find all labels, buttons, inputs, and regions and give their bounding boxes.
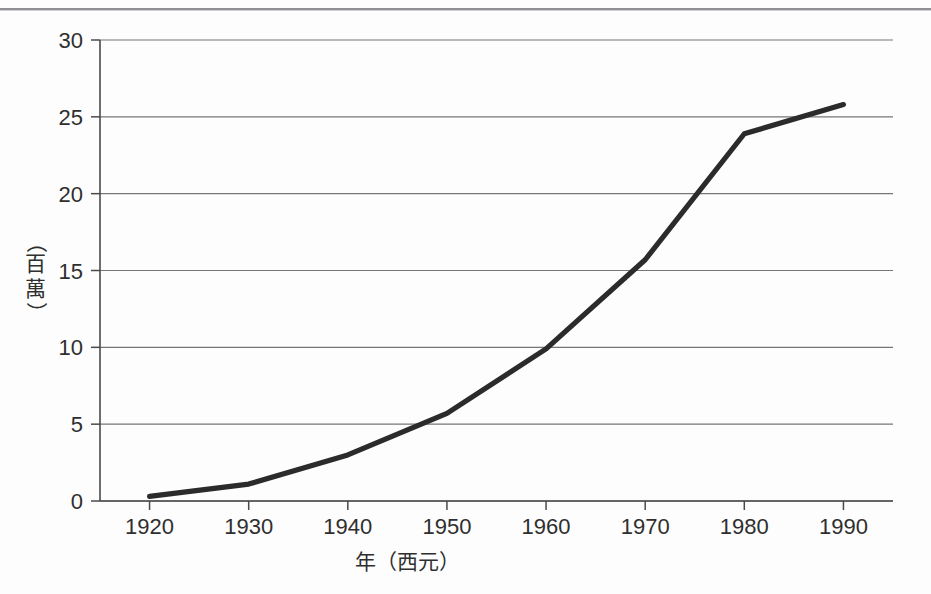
y-tick-mark-group [91,40,100,501]
gridline-group [100,40,893,501]
x-tick-label-1930: 1930 [224,514,273,539]
y-tick-label-10: 10 [59,335,83,360]
data-series-line [150,105,844,497]
x-tick-label-1920: 1920 [125,514,174,539]
x-tick-mark-group [150,501,844,510]
x-tick-label-group: 19201930194019501960197019801990 [125,514,868,539]
x-tick-label-1990: 1990 [819,514,868,539]
y-tick-label-15: 15 [59,259,83,284]
line-chart: 051015202530 192019301940195019601970198… [0,0,931,594]
y-tick-label-5: 5 [71,412,83,437]
y-tick-label-group: 051015202530 [59,28,83,514]
y-tick-label-30: 30 [59,28,83,53]
y-axis-title-char-0: （ [25,225,45,259]
x-tick-label-1940: 1940 [323,514,372,539]
y-axis-title-char-3: ） [25,295,45,329]
x-axis-title: 年（西元） [355,545,460,575]
chart-canvas: 051015202530 192019301940195019601970198… [0,0,931,594]
x-tick-label-1950: 1950 [422,514,471,539]
x-tick-label-1970: 1970 [621,514,670,539]
y-axis-title: （ 百 萬 ） [18,232,52,322]
y-tick-label-0: 0 [71,489,83,514]
y-tick-label-25: 25 [59,105,83,130]
x-tick-label-1980: 1980 [720,514,769,539]
y-tick-label-20: 20 [59,182,83,207]
x-tick-label-1960: 1960 [522,514,571,539]
